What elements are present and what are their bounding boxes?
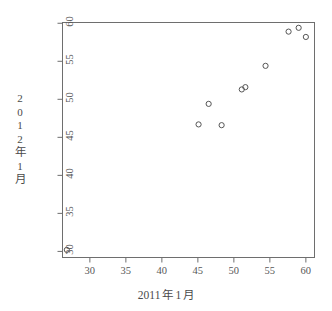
y-axis-title-char: 1 bbox=[12, 119, 28, 133]
plot-frame bbox=[62, 22, 315, 258]
scatter-plot-figure: 30354045505560 30354045505560 2011年1月 20… bbox=[0, 0, 332, 311]
y-axis-title-char: 2 bbox=[12, 92, 28, 106]
y-tick-label: 30 bbox=[63, 243, 74, 257]
x-tick-label: 50 bbox=[229, 265, 240, 276]
y-axis-title-char: 0 bbox=[12, 106, 28, 120]
x-tick-label: 40 bbox=[157, 265, 168, 276]
y-tick-label: 60 bbox=[63, 15, 74, 29]
y-tick-label: 35 bbox=[63, 205, 74, 219]
x-axis-ticks bbox=[90, 258, 306, 263]
y-axis-title-char: 2 bbox=[12, 133, 28, 147]
y-tick-label: 40 bbox=[63, 167, 74, 181]
x-axis-title-part: 1 bbox=[175, 289, 181, 301]
x-tick-label: 55 bbox=[265, 265, 276, 276]
y-axis-title-char: 月 bbox=[12, 173, 28, 187]
y-tick-label: 50 bbox=[63, 91, 74, 105]
y-axis-title-char: 年 bbox=[12, 146, 28, 160]
x-axis-title-part: 2011 bbox=[138, 289, 161, 301]
x-axis-title-part: 月 bbox=[183, 289, 194, 301]
x-tick-label: 30 bbox=[85, 265, 96, 276]
y-tick-label: 55 bbox=[63, 53, 74, 67]
x-axis-title-part: 年 bbox=[162, 289, 173, 301]
x-axis-title: 2011年1月 bbox=[0, 286, 332, 302]
y-axis-title: 2012年1月 bbox=[12, 92, 28, 187]
x-tick-label: 60 bbox=[301, 265, 312, 276]
y-tick-label: 45 bbox=[63, 129, 74, 143]
y-axis-title-char: 1 bbox=[12, 160, 28, 174]
x-tick-label: 35 bbox=[121, 265, 132, 276]
x-tick-label: 45 bbox=[193, 265, 204, 276]
